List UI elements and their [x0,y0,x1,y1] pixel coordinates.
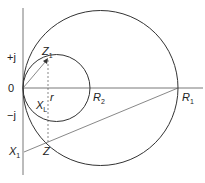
label-r1: R1 [182,92,194,105]
label-xl: XL [36,100,47,113]
label-r2: R2 [93,92,105,105]
label-plus-j: +j [7,52,16,63]
label-z1: Z1 [42,46,53,59]
label-z: Z [43,146,50,157]
label-minus-j: −j [7,110,16,121]
label-r: r [50,92,54,103]
label-origin: 0 [8,83,14,94]
label-x1: X1 [9,146,20,159]
